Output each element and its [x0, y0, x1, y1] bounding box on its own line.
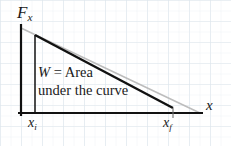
area-annotation-line-1: W = Area	[38, 64, 168, 82]
tick-label-x-initial-subscript: i	[34, 122, 37, 132]
x-axis-label-symbol: x	[206, 97, 213, 113]
area-annotation-line-2: under the curve	[38, 82, 168, 100]
tick-label-x-final: xf	[163, 116, 172, 132]
y-axis-label-symbol: F	[17, 3, 27, 22]
y-axis-label-subscript: x	[27, 11, 32, 23]
tick-label-x-final-subscript: f	[169, 122, 172, 132]
x-axis-label: x	[206, 98, 213, 113]
work-symbol: W	[38, 64, 50, 80]
tick-label-x-initial: xi	[28, 116, 37, 132]
area-annotation: W = Area under the curve	[38, 64, 168, 99]
force-vs-position-figure: Fx x xi xf W = Area under the curve	[0, 0, 231, 146]
area-annotation-line-1-rest: = Area	[50, 64, 93, 80]
y-axis-label: Fx	[17, 4, 32, 24]
